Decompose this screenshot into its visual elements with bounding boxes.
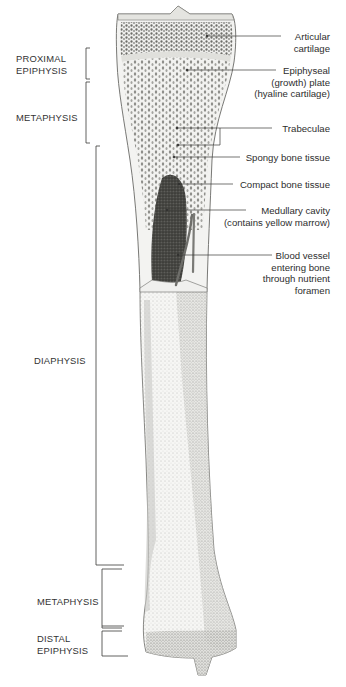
callout-epiphyseal-plate: Epiphyseal (growth) plate (hyaline carti… (254, 65, 330, 100)
callout-line: (growth) plate (254, 77, 330, 89)
region-label-diaphysis: DIAPHYSIS (34, 355, 86, 367)
tibia-illustration (0, 0, 346, 687)
callout-line: Trabeculae (282, 123, 330, 135)
callout-line: Epiphyseal (254, 65, 330, 77)
callout-line: Blood vessel (263, 250, 330, 262)
callout-line: Spongy bone tissue (246, 152, 330, 164)
callout-line: Articular (294, 31, 330, 43)
articular-cartilage-cap (118, 6, 234, 20)
region-brackets (86, 48, 128, 656)
callout-line: cartilage (294, 43, 330, 55)
region-label-line: EPIPHYSIS (16, 65, 67, 77)
region-label-distal-metaphysis: METAPHYSIS (37, 596, 99, 608)
region-label-proximal-epiphysis: PROXIMAL EPIPHYSIS (16, 53, 67, 76)
bracket-distal-metaphysis (102, 569, 122, 628)
region-label-line: EPIPHYSIS (37, 645, 88, 657)
callout-medullary-cavity: Medullary cavity (contains yellow marrow… (224, 205, 330, 228)
region-label-proximal-metaphysis: METAPHYSIS (16, 112, 78, 124)
callout-line: (contains yellow marrow) (224, 217, 330, 229)
callout-line: entering bone (263, 262, 330, 274)
region-label-distal-epiphysis: DISTAL EPIPHYSIS (37, 633, 88, 656)
region-label-line: METAPHYSIS (16, 112, 78, 124)
callout-spongy-bone: Spongy bone tissue (246, 152, 330, 164)
region-label-line: DISTAL (37, 633, 88, 645)
callout-line: Medullary cavity (224, 205, 330, 217)
bracket-proximal-metaphysis (86, 82, 90, 143)
epiphysis-spongy (120, 22, 232, 56)
bone-diagram: PROXIMAL EPIPHYSIS METAPHYSIS DIAPHYSIS … (0, 0, 346, 687)
callout-articular-cartilage: Articular cartilage (294, 31, 330, 54)
bracket-distal-epiphysis (102, 631, 128, 656)
callout-trabeculae: Trabeculae (282, 123, 330, 135)
callout-compact-bone: Compact bone tissue (240, 179, 330, 191)
callout-blood-vessel: Blood vessel entering bone through nutri… (263, 250, 330, 296)
region-label-line: DIAPHYSIS (34, 355, 86, 367)
callout-line: through nutrient (263, 273, 330, 285)
region-label-line: PROXIMAL (16, 53, 67, 65)
region-label-line: METAPHYSIS (37, 596, 99, 608)
callout-line: Compact bone tissue (240, 179, 330, 191)
bracket-proximal-epiphysis (86, 48, 90, 79)
bracket-diaphysis (96, 146, 100, 565)
callout-line: (hyaline cartilage) (254, 88, 330, 100)
callout-line: foramen (263, 285, 330, 297)
